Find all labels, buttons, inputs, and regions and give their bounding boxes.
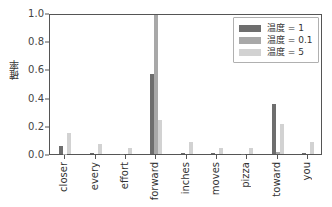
- bar: [302, 153, 306, 154]
- x-tick-label: toward: [272, 162, 282, 197]
- legend-swatch-icon: [239, 25, 261, 32]
- y-tick-label: 0.0: [28, 150, 44, 160]
- x-axis: closereveryeffortforwardinchesmovespizza…: [49, 155, 322, 207]
- legend-label: 温度 = 1: [267, 24, 304, 33]
- bar: [98, 144, 102, 154]
- legend-swatch-icon: [239, 37, 261, 44]
- y-tick-label: 1.0: [28, 9, 44, 19]
- y-tick-label: 0.2: [28, 122, 44, 132]
- bar: [158, 120, 162, 154]
- bar-group: [150, 15, 162, 154]
- y-tick-label: 0.8: [28, 37, 44, 47]
- bar-group: [181, 15, 193, 154]
- x-tick-mark: [246, 155, 247, 159]
- x-tick-mark: [95, 155, 96, 159]
- x-tick-mark: [155, 155, 156, 159]
- legend-swatch-icon: [239, 49, 261, 56]
- x-tick-mark: [277, 155, 278, 159]
- bar-group: [59, 15, 71, 154]
- bar: [67, 133, 71, 154]
- x-tick-mark: [307, 155, 308, 159]
- x-tick-label: pizza: [241, 162, 251, 188]
- x-tick-label: every: [90, 162, 100, 190]
- x-tick-label: closer: [59, 162, 69, 192]
- y-tick-label: 0.4: [28, 94, 44, 104]
- y-axis-label: 確率: [7, 60, 22, 80]
- bar-group: [211, 15, 223, 154]
- bar: [310, 142, 314, 154]
- bar: [280, 124, 284, 154]
- bar-group: [120, 15, 132, 154]
- x-tick-label: inches: [181, 162, 191, 194]
- bar: [128, 148, 132, 154]
- bar: [181, 153, 185, 154]
- legend-label: 温度 = 5: [267, 48, 304, 57]
- bar: [90, 153, 94, 154]
- bar: [249, 148, 253, 154]
- y-tick-label: 0.6: [28, 65, 44, 75]
- x-tick-label: effort: [120, 162, 130, 189]
- x-tick-label: forward: [150, 162, 160, 200]
- x-tick-mark: [186, 155, 187, 159]
- bar-group: [90, 15, 102, 154]
- x-tick-label: moves: [211, 162, 221, 195]
- legend-label: 温度 = 0.1: [267, 36, 313, 45]
- x-tick-mark: [125, 155, 126, 159]
- bar: [219, 148, 223, 154]
- bar: [59, 146, 63, 154]
- bar: [189, 142, 193, 154]
- bar: [211, 153, 215, 154]
- legend-item: 温度 = 1: [239, 22, 313, 34]
- legend: 温度 = 1温度 = 0.1温度 = 5: [233, 17, 319, 63]
- x-tick-mark: [64, 155, 65, 159]
- legend-item: 温度 = 5: [239, 46, 313, 58]
- x-tick-mark: [216, 155, 217, 159]
- legend-item: 温度 = 0.1: [239, 34, 313, 46]
- chart-figure: 0.00.20.40.60.81.0 確率 closereveryeffortf…: [0, 0, 332, 207]
- bar: [272, 104, 276, 154]
- x-tick-label: you: [302, 162, 312, 180]
